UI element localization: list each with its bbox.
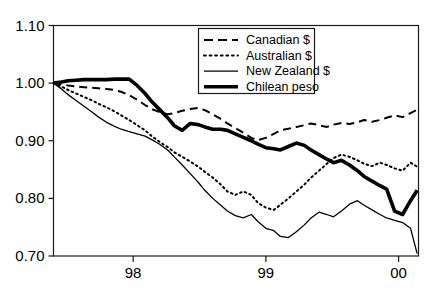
x-tick-label: 00: [390, 264, 407, 281]
legend-label-4: Chilean peso: [246, 80, 319, 94]
y-tick-label: 1.10: [15, 17, 44, 34]
x-axis-ticks: [133, 256, 398, 262]
x-tick-label: 98: [125, 264, 142, 281]
y-tick-label: 0.80: [15, 189, 44, 206]
x-axis-tick-labels: 989900: [125, 264, 407, 281]
y-tick-label: 1.00: [15, 74, 44, 91]
exchange-rate-line-chart: 0.700.800.901.001.10 989900 Canadian $Au…: [0, 0, 439, 289]
y-tick-label: 0.70: [15, 247, 44, 264]
legend-label-1: Canadian $: [246, 33, 310, 47]
legend-label-2: Australian $: [246, 49, 312, 63]
y-tick-label: 0.90: [15, 132, 44, 149]
y-axis-tick-labels: 0.700.800.901.001.10: [15, 17, 44, 265]
legend-label-3: New Zealand $: [246, 64, 330, 78]
chart-legend: Canadian $Australian $New Zealand $Chile…: [199, 29, 331, 94]
x-tick-label: 99: [258, 264, 275, 281]
y-axis-ticks: [49, 26, 54, 257]
chart-canvas: 0.700.800.901.001.10 989900 Canadian $Au…: [0, 0, 439, 289]
